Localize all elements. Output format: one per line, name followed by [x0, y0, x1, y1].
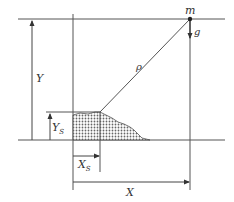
horizontal-distance-label: X — [125, 186, 135, 199]
mass-point — [188, 17, 192, 21]
height-label: Y — [36, 72, 45, 85]
distance-rho-line — [100, 19, 190, 112]
source-deposit — [73, 112, 150, 140]
distance-rho-label: ρ — [135, 61, 142, 72]
mass-label: m — [185, 4, 195, 17]
source-x-label: XS — [77, 158, 91, 173]
gravity-label: g — [194, 26, 200, 37]
physics-diagram: m g ρ Y YS XS X — [0, 0, 234, 202]
source-height-label: YS — [52, 121, 64, 136]
